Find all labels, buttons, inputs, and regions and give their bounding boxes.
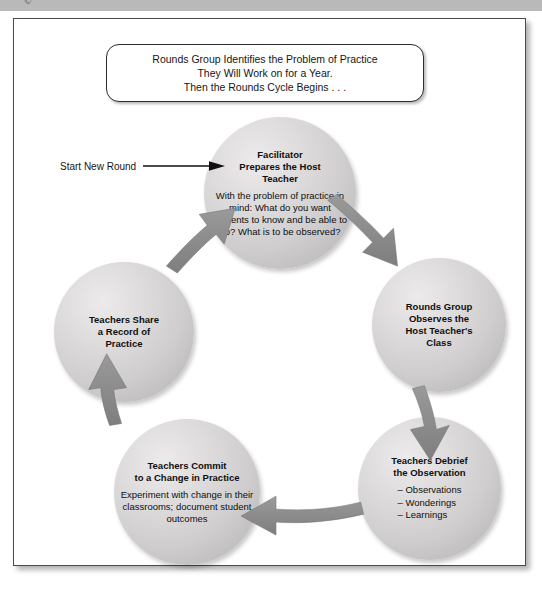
node-observes-title: Rounds Group Observes the Host Teacher's… <box>405 301 472 349</box>
callout-box: Rounds Group Identifies the Problem of P… <box>106 44 424 102</box>
cycle-node-commit[interactable]: Teachers Commit to a Change in Practice … <box>114 419 260 565</box>
cycle-node-share[interactable]: Teachers Share a Record of Practice <box>54 262 194 402</box>
node-facilitator-body: With the problem of practice in mind: Wh… <box>210 190 350 238</box>
cycle-node-facilitator[interactable]: Facilitator Prepares the Host Teacher Wi… <box>204 117 356 269</box>
node-commit-title: Teachers Commit to a Change in Practice <box>134 460 239 484</box>
figure-frame: Rounds Group Identifies the Problem of P… <box>13 18 526 566</box>
callout-line-3: Then the Rounds Cycle Begins . . . <box>184 80 346 94</box>
node-debrief-bullets: – Observations – Wonderings – Learnings <box>398 484 462 522</box>
arrow-debrief-to-commit <box>241 496 364 535</box>
node-debrief-title: Teachers Debrief the Observation <box>391 455 467 479</box>
start-new-round-label: Start New Round <box>60 161 136 172</box>
right-arrow-icon <box>143 159 229 173</box>
node-share-title: Teachers Share a Record of Practice <box>89 314 159 350</box>
cycle-node-observes[interactable]: Rounds Group Observes the Host Teacher's… <box>372 258 506 392</box>
cycle-node-debrief[interactable]: Teachers Debrief the Observation – Obser… <box>358 417 501 560</box>
callout-line-1: Rounds Group Identifies the Problem of P… <box>152 52 377 66</box>
node-commit-body: Experiment with change in their classroo… <box>119 489 255 525</box>
node-facilitator-title: Facilitator Prepares the Host Teacher <box>239 149 320 185</box>
start-new-round: Start New Round <box>60 159 229 173</box>
page-header-band: © <box>0 0 542 11</box>
page-header-glyph: © <box>24 0 32 6</box>
callout-line-2: They Will Work on for a Year. <box>197 66 332 80</box>
